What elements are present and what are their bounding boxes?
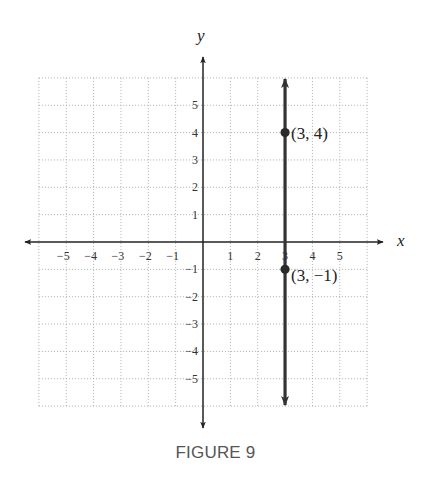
axes xyxy=(25,57,383,428)
data-point xyxy=(280,265,289,274)
x-tick-label: 2 xyxy=(255,249,261,263)
y-tick-label: 1 xyxy=(192,208,198,222)
y-tick-label: −3 xyxy=(185,317,198,331)
x-tick-label: −1 xyxy=(166,249,179,263)
x-tick-label: −2 xyxy=(139,249,152,263)
y-tick-label: 5 xyxy=(192,98,198,112)
y-tick-label: −5 xyxy=(185,372,198,386)
x-tick-label: 1 xyxy=(227,249,233,263)
x-tick-label: 4 xyxy=(309,249,315,263)
x-axis-label: x xyxy=(396,231,405,250)
figure-caption: FIGURE 9 xyxy=(0,443,431,463)
y-tick-label: −2 xyxy=(185,290,198,304)
y-tick-label: −4 xyxy=(185,344,198,358)
point-label: (3, 4) xyxy=(291,124,328,143)
y-tick-label: 4 xyxy=(192,126,198,140)
x-tick-label: −4 xyxy=(84,249,97,263)
y-axis-label: y xyxy=(195,26,205,45)
x-tick-label: 5 xyxy=(337,249,343,263)
y-tick-label: 2 xyxy=(192,180,198,194)
data-point xyxy=(280,128,289,137)
y-tick-label: 3 xyxy=(192,153,198,167)
x-tick-label: −5 xyxy=(57,249,70,263)
y-tick-label: −1 xyxy=(185,262,198,276)
x-tick-label: −3 xyxy=(112,249,125,263)
point-label: (3, −1) xyxy=(291,266,337,285)
coordinate-plane: −5−4−3−2−11234554321−1−2−3−4−5 x y (3, 4… xyxy=(0,0,431,477)
